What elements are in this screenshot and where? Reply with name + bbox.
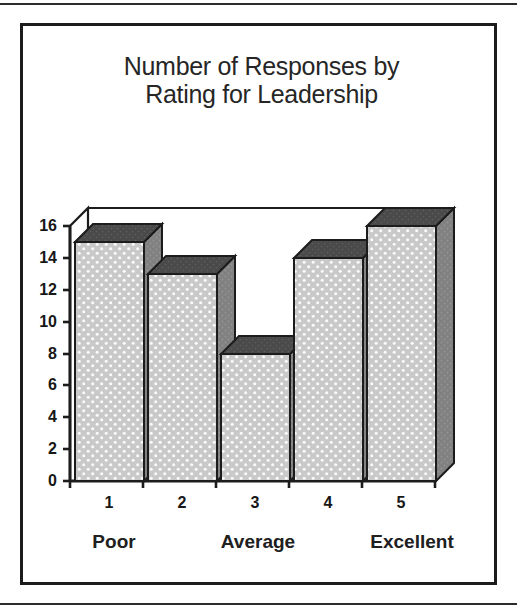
y-tick-label-4: 4 <box>23 408 57 426</box>
plot-area: 0 2 4 6 8 10 12 14 16 1 2 3 4 5 Poor Ave… <box>23 26 500 588</box>
y-tick-label-12: 12 <box>23 281 57 299</box>
y-tick-label-2: 2 <box>23 440 57 458</box>
x-tick-label-5: 5 <box>371 494 431 512</box>
y-tick-label-0: 0 <box>23 472 57 490</box>
y-tick-label-8: 8 <box>23 345 57 363</box>
x-tick-label-3: 3 <box>225 494 285 512</box>
anchor-label-poor: Poor <box>39 531 189 553</box>
y-tick-label-16: 16 <box>23 217 57 235</box>
x-tick-label-1: 1 <box>79 494 139 512</box>
x-tick-label-4: 4 <box>298 494 358 512</box>
anchor-label-average: Average <box>183 531 333 553</box>
bar-column-5[interactable] <box>367 208 454 481</box>
y-tick-label-6: 6 <box>23 376 57 394</box>
figure-frame: Number of Responses by Rating for Leader… <box>20 23 497 585</box>
x-tick-label-2: 2 <box>152 494 212 512</box>
page-rule-bottom <box>0 603 517 605</box>
y-tick-label-14: 14 <box>23 249 57 267</box>
page-rule-top <box>0 3 517 5</box>
y-tick-label-10: 10 <box>23 313 57 331</box>
anchor-label-excellent: Excellent <box>337 531 487 553</box>
